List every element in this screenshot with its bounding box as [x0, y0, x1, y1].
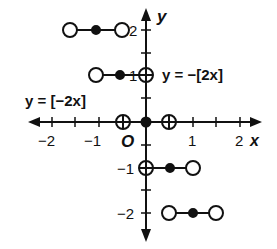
x-tick-label: −2: [38, 132, 55, 149]
open-point: [89, 68, 103, 82]
y-axis-up-arrow-icon: [141, 8, 151, 21]
segment-y-2: [63, 23, 129, 37]
y-tick-label: −1: [117, 160, 134, 177]
segment-y-1: [89, 68, 153, 82]
y-tick-label: −2: [117, 205, 134, 222]
segment-y-neg1: [139, 161, 200, 175]
open-point: [209, 206, 223, 220]
equation-left: y = [−2x]: [25, 92, 86, 109]
y-tick-label: 2: [129, 22, 137, 39]
closed-point: [92, 26, 100, 34]
closed-point: [189, 209, 197, 217]
segment-y-neg2: [162, 206, 223, 220]
open-point: [162, 206, 176, 220]
origin-label: O: [121, 132, 134, 151]
y-axis-label: y: [156, 7, 168, 26]
open-point: [186, 161, 200, 175]
x-axis-label: x: [249, 132, 260, 149]
x-axis-right-arrow-icon: [250, 117, 262, 127]
y-tick-label: 1: [129, 67, 137, 84]
segment-y-0: [116, 115, 176, 129]
equation-right: y = −[2x]: [162, 66, 223, 83]
x-axis-left-arrow-icon: [28, 117, 40, 127]
open-point: [63, 23, 77, 37]
closed-point: [166, 164, 174, 172]
x-tick-label: 1: [188, 132, 196, 149]
step-function-graph: −2 −1 1 2 x O 2 1 −1 −2 y y = [−2x] y = …: [0, 0, 277, 249]
closed-point: [116, 71, 124, 79]
closed-point: [142, 118, 151, 127]
y-axis-down-arrow-icon: [141, 229, 151, 242]
open-point: [115, 23, 129, 37]
x-tick-label: 2: [235, 132, 243, 149]
x-tick-label: −1: [84, 132, 101, 149]
